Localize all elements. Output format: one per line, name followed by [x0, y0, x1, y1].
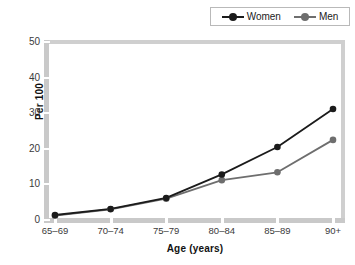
data-point-women — [52, 212, 59, 219]
series-line-men — [55, 140, 333, 216]
data-point-women — [219, 171, 226, 178]
data-point-women — [163, 195, 170, 202]
data-point-men — [274, 169, 281, 176]
data-point-men — [330, 137, 337, 144]
chart-series-layer — [0, 0, 355, 265]
data-point-women — [330, 106, 337, 113]
data-point-women — [274, 144, 281, 151]
data-point-women — [107, 206, 114, 213]
series-line-women — [55, 109, 333, 215]
chart-figure: Women Men Per 100 Age (years) 0102030405… — [0, 0, 355, 265]
data-point-men — [219, 177, 226, 184]
